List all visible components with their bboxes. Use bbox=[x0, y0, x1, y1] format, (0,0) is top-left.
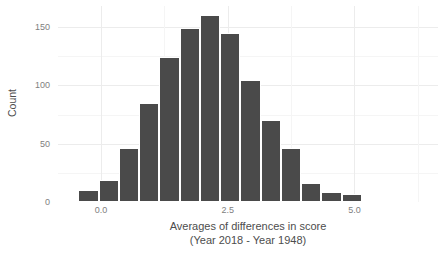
histogram-bar bbox=[99, 180, 119, 202]
histogram-bar bbox=[321, 192, 341, 203]
y-axis-tick-label: 0 bbox=[45, 197, 50, 207]
y-axis-tick-label: 50 bbox=[40, 139, 50, 149]
histogram-bar bbox=[119, 148, 139, 202]
histogram-bar bbox=[342, 194, 362, 202]
histogram-bar bbox=[78, 190, 98, 202]
histogram-bar bbox=[261, 120, 281, 202]
x-axis-title: Averages of differences in score (Year 2… bbox=[58, 219, 438, 247]
histogram-bar bbox=[159, 57, 179, 202]
x-axis-tick-label: 2.5 bbox=[221, 205, 234, 215]
histogram-bar bbox=[281, 148, 301, 202]
histogram-bar bbox=[301, 183, 321, 202]
histogram-bar bbox=[139, 103, 159, 202]
histogram-chart: Count 050100150 0.02.55.0 Averages of di… bbox=[0, 0, 445, 263]
y-axis-title-label: Count bbox=[6, 88, 18, 116]
histogram-bar bbox=[200, 15, 220, 202]
y-axis-tick-label: 100 bbox=[35, 80, 50, 90]
bars-layer bbox=[58, 6, 438, 202]
x-axis-tick-label: 5.0 bbox=[348, 205, 361, 215]
y-axis-title: Count bbox=[2, 0, 22, 205]
x-axis-title-line-1: Averages of differences in score bbox=[58, 219, 438, 233]
histogram-bar bbox=[180, 28, 200, 202]
x-axis-title-line-2: (Year 2018 - Year 1948) bbox=[58, 233, 438, 247]
x-axis-tick-labels: 0.02.55.0 bbox=[58, 203, 438, 219]
x-axis-tick-label: 0.0 bbox=[95, 205, 108, 215]
histogram-bar bbox=[58, 200, 78, 202]
histogram-bar bbox=[220, 33, 240, 202]
y-axis-tick-label: 150 bbox=[35, 22, 50, 32]
plot-panel bbox=[58, 6, 438, 202]
y-axis-tick-labels: 050100150 bbox=[22, 0, 54, 205]
histogram-bar bbox=[240, 80, 260, 203]
